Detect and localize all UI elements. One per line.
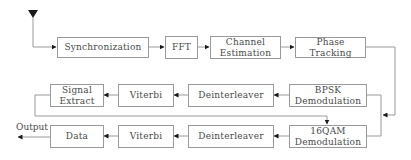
phase-tracking-block: Phase Tracking [295, 37, 366, 58]
data-block: Data [50, 125, 104, 148]
channel-estimation-block: Channel Estimation [210, 36, 281, 59]
viterbi-block-1: Viterbi [118, 84, 174, 107]
deinterleaver-block-1: Deinterleaver [188, 84, 274, 107]
synchronization-block: Synchronization [57, 37, 149, 58]
fft-block: FFT [165, 36, 198, 59]
output-label: Output [16, 122, 48, 132]
signal-extract-block: Signal Extract [50, 84, 104, 107]
bpsk-demodulation-block: BPSK Demodulation [289, 84, 367, 107]
receiver-block-diagram: Synchronization FFT Channel Estimation P… [0, 0, 411, 160]
deinterleaver-block-2: Deinterleaver [188, 125, 274, 148]
input-arrow-icon [28, 10, 38, 18]
viterbi-block-2: Viterbi [118, 125, 174, 148]
16qam-demodulation-block: 16QAM Demodulation [289, 125, 367, 148]
